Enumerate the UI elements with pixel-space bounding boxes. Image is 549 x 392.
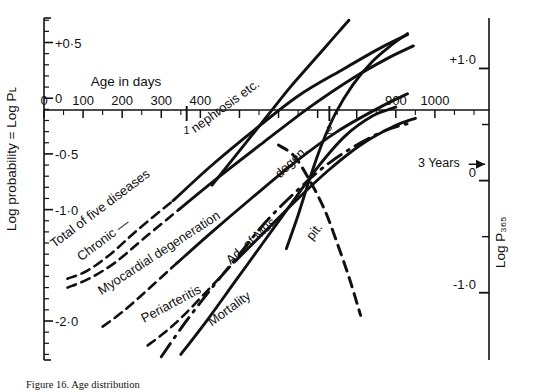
x-axis-tick-label: 1000 [420, 93, 449, 108]
left-axis-tick-label: -2·0 [55, 314, 78, 329]
right-axis-tick-label: +1·0 [450, 52, 476, 67]
annotation-arrow-head-0 [476, 160, 485, 169]
curve-1 [179, 46, 414, 210]
x-axis-tick-label: 200 [111, 93, 133, 108]
left-axis-title: Log probability = Log Pʟ [4, 86, 19, 230]
left-axis-tick-label: +0·5 [55, 36, 81, 51]
curve-label-4: degen. [272, 143, 311, 181]
right-axis-tick-label: 0 [469, 165, 476, 180]
curve-label-8: Mortality [205, 288, 254, 329]
x-axis-tick-label: 0 [40, 93, 47, 108]
x-axis-tick-label: 100 [72, 93, 94, 108]
left-axis-tick-label: -1·0 [55, 203, 78, 218]
x-axis-title: Age in days [91, 74, 162, 89]
left-axis-tick-label: -0·5 [55, 147, 78, 162]
curve-label-7: pit. [303, 220, 325, 243]
annotation-label-0: 3 Years [418, 156, 460, 170]
right-axis-tick-label: -1·0 [453, 277, 476, 292]
right-axis-title: Log P₃₆₅ [493, 216, 508, 268]
left-axis-tick-label: 0 [55, 91, 62, 106]
figure-caption: Figure 16. Age distribution [26, 379, 140, 390]
x-axis-tick-label: 300 [150, 93, 172, 108]
x-axis-tick-label: 400 [190, 93, 212, 108]
figure-caption-wrap: Figure 16. Age distribution [26, 374, 140, 392]
